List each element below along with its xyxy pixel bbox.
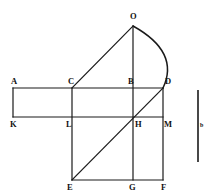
vertex-label-D: D xyxy=(165,77,171,86)
figure-canvas xyxy=(0,0,214,195)
segment-E-D xyxy=(72,88,163,180)
vertex-label-B: B xyxy=(128,77,134,86)
vertex-label-A: A xyxy=(11,77,17,86)
vertex-label-H: H xyxy=(135,120,142,129)
geometric-figure: O A C B D K L H M E G F b xyxy=(0,0,214,195)
scale-bar-label: b xyxy=(200,122,203,128)
vertex-label-O: O xyxy=(130,12,137,21)
vertex-label-C: C xyxy=(68,77,74,86)
vertex-label-E: E xyxy=(67,183,73,192)
vertex-label-G: G xyxy=(129,183,136,192)
arc-O-D xyxy=(133,26,168,88)
vertex-label-F: F xyxy=(161,183,166,192)
vertex-label-K: K xyxy=(10,120,17,129)
vertex-label-M: M xyxy=(164,120,172,129)
segment-C-O xyxy=(72,26,133,88)
vertex-label-L: L xyxy=(66,120,72,129)
